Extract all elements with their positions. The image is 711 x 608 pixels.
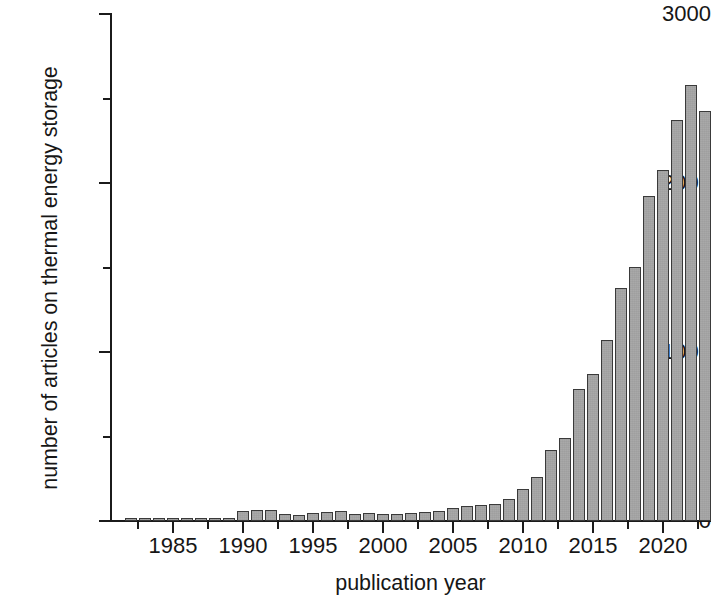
bar	[419, 512, 430, 521]
bar	[391, 514, 402, 521]
bar-texture	[252, 511, 261, 520]
x-tick-major	[312, 522, 314, 533]
bar-texture	[350, 515, 359, 520]
bar	[559, 438, 570, 521]
bar-texture	[126, 519, 135, 520]
bar	[223, 518, 234, 521]
x-tick-minor	[627, 522, 629, 529]
y-tick-minor	[103, 98, 110, 100]
chart-figure: number of articles on thermal energy sto…	[0, 0, 711, 608]
x-tick-major	[382, 522, 384, 533]
bar	[699, 111, 710, 521]
bar	[671, 120, 682, 521]
bar-texture	[154, 519, 163, 520]
bar-series	[110, 14, 711, 521]
bar-texture	[644, 197, 653, 520]
x-tick-label: 1995	[273, 535, 353, 557]
x-tick-minor	[207, 522, 209, 529]
x-tick-major	[452, 522, 454, 533]
x-tick-minor	[487, 522, 489, 529]
bar	[405, 513, 416, 521]
bar	[461, 506, 472, 521]
bar-texture	[392, 515, 401, 520]
x-tick-major	[522, 522, 524, 533]
bar-texture	[462, 507, 471, 520]
bar	[601, 340, 612, 521]
bar-texture	[140, 519, 149, 520]
bar	[433, 511, 444, 521]
bar	[503, 499, 514, 521]
bar-texture	[364, 514, 373, 520]
bar-texture	[602, 341, 611, 520]
bar	[237, 511, 248, 521]
bar	[167, 518, 178, 521]
bar-texture	[266, 511, 275, 520]
bar-texture	[322, 513, 331, 520]
bar-texture	[630, 268, 639, 520]
bar-texture	[210, 519, 219, 520]
x-tick-major	[592, 522, 594, 533]
bar	[251, 510, 262, 521]
bar-texture	[308, 514, 317, 520]
bar-texture	[224, 519, 233, 520]
bar-texture	[448, 509, 457, 520]
bar	[349, 514, 360, 521]
bar-texture	[658, 171, 667, 520]
bar-texture	[196, 519, 205, 520]
bar-texture	[700, 112, 709, 520]
y-axis-label: number of articles on thermal energy sto…	[38, 8, 78, 548]
bar-texture	[518, 490, 527, 520]
bar-texture	[532, 478, 541, 520]
bar-texture	[182, 519, 191, 520]
bar-texture	[574, 390, 583, 520]
bar	[685, 85, 696, 521]
bar-texture	[294, 516, 303, 520]
x-tick-major	[172, 522, 174, 533]
bar-texture	[476, 506, 485, 520]
bar	[587, 374, 598, 521]
bar-texture	[672, 121, 681, 520]
bar-texture	[490, 505, 499, 520]
y-tick-major	[99, 351, 110, 353]
bar	[307, 513, 318, 521]
bar	[265, 510, 276, 521]
bar-texture	[560, 439, 569, 520]
bar	[447, 508, 458, 521]
x-tick-label: 1990	[203, 535, 283, 557]
bar-texture	[686, 86, 695, 520]
bar	[335, 511, 346, 521]
bar-texture	[420, 513, 429, 520]
bar	[293, 515, 304, 521]
bar	[125, 518, 136, 521]
bar-texture	[616, 289, 625, 520]
bar-texture	[280, 515, 289, 520]
x-tick-minor	[557, 522, 559, 529]
x-tick-minor	[277, 522, 279, 529]
bar	[545, 450, 556, 521]
x-axis-label: publication year	[110, 571, 711, 596]
x-tick-minor	[347, 522, 349, 529]
x-tick-label: 2020	[623, 535, 703, 557]
bar	[573, 389, 584, 521]
bar	[531, 477, 542, 521]
bar	[279, 514, 290, 521]
bar	[643, 196, 654, 521]
bar	[475, 505, 486, 521]
y-tick-major	[99, 520, 110, 522]
y-tick-major	[99, 13, 110, 15]
bar-texture	[168, 519, 177, 520]
x-tick-minor	[417, 522, 419, 529]
bar	[517, 489, 528, 521]
bar	[489, 504, 500, 521]
y-tick-minor	[103, 436, 110, 438]
bar	[195, 518, 206, 521]
bar	[615, 288, 626, 521]
y-tick-minor	[103, 267, 110, 269]
bar	[377, 514, 388, 521]
x-tick-label: 2005	[413, 535, 493, 557]
x-tick-label: 1985	[133, 535, 213, 557]
bar-texture	[434, 512, 443, 520]
x-tick-label: 2000	[343, 535, 423, 557]
x-tick-major	[242, 522, 244, 533]
bar-texture	[546, 451, 555, 520]
